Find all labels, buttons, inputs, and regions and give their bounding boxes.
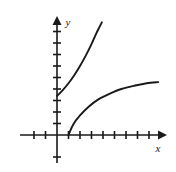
upper-curve (57, 22, 102, 96)
lower-curve (69, 82, 159, 135)
y-axis-arrowhead (53, 16, 62, 25)
coordinate-plane: x y (0, 0, 176, 172)
x-axis-arrowhead (158, 131, 167, 140)
x-axis-group: x (20, 131, 167, 155)
y-axis-label: y (65, 16, 71, 28)
graph-figure: x y (0, 0, 176, 172)
y-axis-group: y (53, 16, 71, 163)
x-axis-label: x (155, 142, 161, 154)
curves-group (57, 22, 158, 135)
